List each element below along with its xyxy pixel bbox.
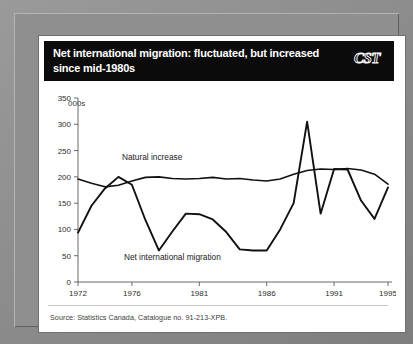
series-group [78,122,388,251]
annotation-natural-increase: Natural increase [122,152,183,162]
x-tick-label-1995: 1995 [379,289,396,298]
line-chart: 0501001502002503003501972197619811986199… [44,88,396,306]
plot-area: 0501001502002503003501972197619811986199… [44,88,396,306]
y-tick-label-100: 100 [58,225,72,234]
axes-group [74,98,392,286]
y-tick-label-300: 300 [58,120,72,129]
title-line-2: since mid-1980s [53,62,135,74]
cst-logo-text: CST [354,50,381,66]
figure-bevel-frame: Net international migration: fluctuated,… [14,13,399,327]
annotations-group: Natural increaseNet international migrat… [122,152,221,262]
page-title: Net international migration: fluctuated,… [53,46,323,75]
tick-labels-group: 0501001502002503003501972197619811986199… [58,94,396,298]
y-tick-label-350: 350 [58,94,72,103]
x-tick-label-1972: 1972 [69,289,87,298]
annotation-net-international-migration: Net international migration [124,252,221,262]
series-line-natural-increase [78,168,388,186]
cst-logo: CST [347,49,387,67]
y-tick-label-50: 50 [62,252,71,261]
x-tick-label-1976: 1976 [123,289,141,298]
title-line-1: Net international migration: fluctuated,… [53,47,319,59]
title-bar: Net international migration: fluctuated,… [44,41,394,81]
figure-container: Net international migration: fluctuated,… [0,0,413,344]
chart-panel: Net international migration: fluctuated,… [38,35,406,333]
y-tick-label-150: 150 [58,199,72,208]
y-tick-label-200: 200 [58,173,72,182]
x-tick-label-1986: 1986 [258,289,276,298]
y-tick-label-0: 0 [67,278,72,287]
x-tick-label-1991: 1991 [325,289,343,298]
y-tick-label-250: 250 [58,147,72,156]
x-tick-label-1981: 1981 [190,289,208,298]
source-note: Source: Statistics Canada, Catalogue no.… [50,313,227,322]
series-line-net-international-migration [78,122,388,251]
source-divider [48,305,388,306]
